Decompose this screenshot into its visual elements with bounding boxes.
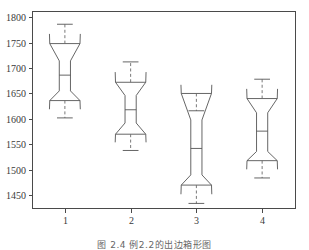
x-tick-label: 1 bbox=[63, 215, 68, 226]
y-tick-label: 1500 bbox=[6, 165, 26, 176]
y-tick-label: 1700 bbox=[6, 63, 26, 74]
y-tick-label: 1650 bbox=[6, 88, 26, 99]
box-plot-item bbox=[49, 24, 80, 118]
x-tick-label: 4 bbox=[260, 215, 265, 226]
boxes-group bbox=[49, 24, 277, 203]
box-plot-item bbox=[115, 62, 146, 151]
x-tick-label: 2 bbox=[129, 215, 134, 226]
box-plot-item bbox=[181, 85, 212, 204]
x-tick-label: 3 bbox=[194, 215, 199, 226]
figure-caption: 图 2.4 例2.2的出边箱形图 bbox=[0, 239, 309, 250]
plot-frame bbox=[33, 12, 296, 209]
y-tick-label: 1600 bbox=[6, 114, 26, 125]
box-body bbox=[247, 99, 277, 161]
y-tick-label: 1450 bbox=[6, 190, 26, 201]
box-body bbox=[116, 82, 146, 134]
box-plot-item bbox=[247, 79, 278, 178]
y-tick-label: 1550 bbox=[6, 139, 26, 150]
y-tick-label: 1750 bbox=[6, 38, 26, 49]
y-tick-label: 1800 bbox=[6, 12, 26, 23]
box-body bbox=[50, 44, 80, 101]
